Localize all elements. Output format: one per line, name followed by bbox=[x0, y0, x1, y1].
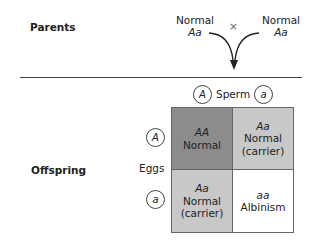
cell-aa: aa Albinism bbox=[233, 170, 293, 232]
cell-Aa-bottom: Aa Normal (carrier) bbox=[172, 170, 233, 232]
cell-AA: AA Normal bbox=[172, 108, 233, 170]
cell-genotype: aa bbox=[257, 189, 270, 202]
sperm-label: Sperm bbox=[216, 88, 250, 100]
cell-note: (carrier) bbox=[181, 207, 224, 220]
punnett-square: AA Normal Aa Normal (carrier) Aa Normal … bbox=[171, 107, 294, 233]
cell-note: (carrier) bbox=[242, 145, 285, 158]
section-divider bbox=[20, 77, 302, 78]
cell-genotype: Aa bbox=[195, 182, 209, 195]
cell-genotype: AA bbox=[195, 126, 209, 139]
egg-allele-A: A bbox=[146, 128, 165, 147]
sperm-allele-A: A bbox=[193, 85, 212, 104]
egg-allele-a: a bbox=[146, 190, 165, 209]
sperm-allele-a: a bbox=[254, 85, 273, 104]
cell-Aa-top: Aa Normal (carrier) bbox=[233, 108, 293, 170]
offspring-label: Offspring bbox=[31, 164, 86, 176]
cell-phenotype: Normal bbox=[244, 132, 282, 145]
cell-phenotype: Albinism bbox=[241, 201, 286, 214]
cell-phenotype: Normal bbox=[183, 195, 221, 208]
cell-genotype: Aa bbox=[256, 120, 270, 133]
eggs-label: Eggs bbox=[139, 162, 164, 174]
cell-phenotype: Normal bbox=[183, 139, 221, 152]
